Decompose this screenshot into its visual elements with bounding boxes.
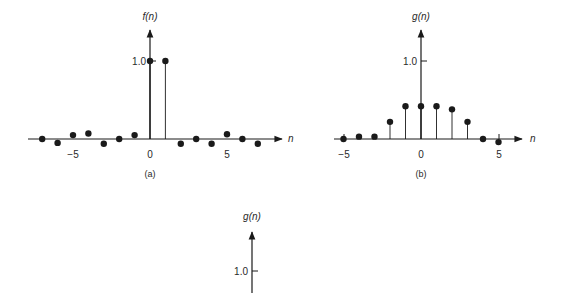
data-point: [402, 103, 408, 109]
data-point: [449, 106, 455, 112]
data-point: [178, 140, 184, 146]
data-point: [116, 136, 122, 142]
figure: 1.0 f(n) n −5 0 5 (a) 1.0 g(n) n −5 0 5 …: [0, 0, 564, 293]
y-axis-label: f(n): [143, 11, 158, 22]
panel-c: 1.0 g(n): [234, 211, 261, 293]
data-point: [101, 140, 107, 146]
data-point: [418, 103, 424, 109]
data-point: [433, 103, 439, 109]
y-tick-label: 1.0: [403, 56, 417, 67]
data-point: [480, 136, 486, 142]
x-tick-label: 0: [418, 149, 424, 160]
x-tick-label: −5: [67, 149, 79, 160]
data-point: [239, 136, 245, 142]
data-point: [70, 132, 76, 138]
x-tick-label: 0: [147, 149, 153, 160]
data-point: [85, 130, 91, 136]
data-point: [224, 131, 230, 137]
data-point: [340, 136, 346, 142]
data-point: [54, 140, 60, 146]
x-tick-label: −5: [338, 149, 350, 160]
panel-caption: (b): [416, 169, 427, 179]
data-point: [387, 119, 393, 125]
y-tick-label: 1.0: [234, 266, 248, 277]
x-tick-label: 5: [496, 149, 502, 160]
y-axis-label: g(n): [412, 11, 430, 22]
stem-series: [39, 58, 261, 147]
data-point: [255, 140, 261, 146]
data-point: [193, 136, 199, 142]
panel-caption: (a): [145, 169, 156, 179]
x-axis-label: n: [288, 133, 294, 144]
panel-b: 1.0 g(n) n −5 0 5 (b): [334, 11, 536, 179]
x-tick-label: 5: [224, 149, 230, 160]
data-point: [131, 132, 137, 138]
y-tick-label: 1.0: [132, 56, 146, 67]
data-point: [162, 58, 168, 64]
y-axis-label: g(n): [243, 211, 261, 222]
x-axis-label: n: [530, 133, 536, 144]
data-point: [39, 136, 45, 142]
data-point: [356, 133, 362, 139]
panel-a: 1.0 f(n) n −5 0 5 (a): [28, 11, 294, 179]
data-point: [371, 133, 377, 139]
data-point: [208, 140, 214, 146]
data-point: [464, 119, 470, 125]
data-point: [147, 58, 153, 64]
data-point: [495, 139, 501, 145]
